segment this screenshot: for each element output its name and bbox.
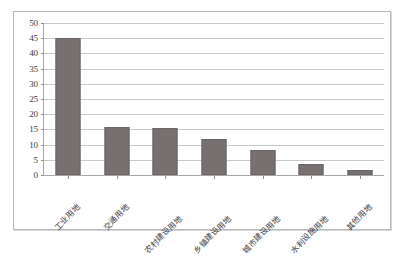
y-axis-tick-10: 10 bbox=[20, 140, 38, 149]
x-axis-label-slot: 工业用地 bbox=[43, 178, 92, 228]
y-axis-tick-35: 35 bbox=[20, 64, 38, 73]
y-axis-tickmark bbox=[41, 114, 44, 115]
y-axis-tickmark bbox=[41, 129, 44, 130]
y-axis-tick-40: 40 bbox=[20, 49, 38, 58]
y-axis-tickmark bbox=[41, 69, 44, 70]
chart-frame: 50454035302520151050 工业用地交通用地农村建设用地乡镇建设用… bbox=[13, 11, 391, 230]
bar-slot bbox=[44, 23, 93, 175]
y-axis-tickmark bbox=[41, 84, 44, 85]
y-axis-tick-30: 30 bbox=[20, 79, 38, 88]
bar-series bbox=[44, 23, 384, 175]
y-axis-tick-labels: 50454035302520151050 bbox=[20, 23, 38, 175]
x-axis-label-4: 乡镇建设用地 bbox=[193, 215, 234, 256]
bar-slot bbox=[141, 23, 190, 175]
x-axis-label-slot: 水利设施用地 bbox=[286, 178, 335, 228]
x-axis-label-slot: 农村建设用地 bbox=[140, 178, 189, 228]
plot-area bbox=[43, 23, 384, 176]
bar-slot bbox=[238, 23, 287, 175]
y-axis-tick-45: 45 bbox=[20, 34, 38, 43]
bar-1[interactable] bbox=[56, 38, 81, 175]
x-axis-label-7: 其他用地 bbox=[345, 203, 374, 232]
bar-slot bbox=[190, 23, 239, 175]
bar-slot bbox=[287, 23, 336, 175]
bar-5[interactable] bbox=[250, 150, 275, 175]
x-axis-label-1: 工业用地 bbox=[54, 203, 83, 232]
x-axis-label-2: 交通用地 bbox=[102, 203, 131, 232]
y-axis-tickmark bbox=[41, 99, 44, 100]
y-axis-tickmark bbox=[41, 175, 44, 176]
y-axis-tick-20: 20 bbox=[20, 110, 38, 119]
x-axis-label-slot: 交通用地 bbox=[92, 178, 141, 228]
y-axis-tickmark bbox=[41, 38, 44, 39]
x-axis-label-3: 农村建设用地 bbox=[144, 215, 185, 256]
bar-slot bbox=[335, 23, 384, 175]
bar-7[interactable] bbox=[347, 170, 372, 175]
x-axis-label-6: 水利设施用地 bbox=[290, 215, 331, 256]
bar-4[interactable] bbox=[201, 139, 226, 175]
bar-3[interactable] bbox=[153, 128, 178, 175]
y-axis-tick-0: 0 bbox=[20, 171, 38, 180]
y-axis-tick-5: 5 bbox=[20, 155, 38, 164]
x-axis-label-slot: 其他用地 bbox=[334, 178, 383, 228]
y-axis-tickmark bbox=[41, 145, 44, 146]
y-axis-tickmark bbox=[41, 160, 44, 161]
x-axis-label-slot: 乡镇建设用地 bbox=[189, 178, 238, 228]
x-axis-label-5: 城市建设用地 bbox=[241, 215, 282, 256]
x-axis-label-slot: 城市建设用地 bbox=[237, 178, 286, 228]
bar-slot bbox=[93, 23, 142, 175]
chart-plot-wrapper: 50454035302520151050 工业用地交通用地农村建设用地乡镇建设用… bbox=[14, 12, 390, 229]
y-axis-tick-50: 50 bbox=[20, 19, 38, 28]
y-axis-tick-15: 15 bbox=[20, 125, 38, 134]
y-axis-tickmark bbox=[41, 23, 44, 24]
bar-6[interactable] bbox=[299, 164, 324, 175]
y-axis-tickmark bbox=[41, 53, 44, 54]
bar-2[interactable] bbox=[104, 127, 129, 175]
x-axis-tick-labels: 工业用地交通用地农村建设用地乡镇建设用地城市建设用地水利设施用地其他用地 bbox=[43, 178, 383, 228]
y-axis-tick-25: 25 bbox=[20, 95, 38, 104]
